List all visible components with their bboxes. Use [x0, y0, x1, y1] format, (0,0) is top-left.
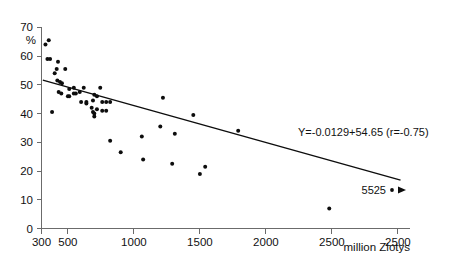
data-point: [59, 91, 63, 95]
data-point: [158, 124, 162, 128]
data-point: [53, 71, 57, 75]
data-point: [141, 158, 145, 162]
data-point: [74, 91, 78, 95]
data-point: [91, 110, 95, 114]
data-point: [78, 90, 82, 94]
x-tick-label: 2000: [253, 236, 279, 248]
data-point: [50, 110, 54, 114]
data-point: [119, 150, 123, 154]
y-tick-label: 60: [20, 50, 33, 62]
y-tick-label: 30: [20, 136, 33, 148]
x-axis-ticks: [42, 229, 398, 234]
y-tick-label: 10: [20, 194, 33, 206]
data-point: [95, 107, 99, 111]
data-point: [198, 172, 202, 176]
x-tick-label: 300: [32, 236, 51, 248]
data-point: [90, 106, 94, 110]
data-point: [100, 109, 104, 113]
y-tick-label: 0: [27, 223, 33, 235]
data-point: [67, 94, 71, 98]
data-point: [60, 81, 64, 85]
y-tick-label: 40: [20, 108, 33, 120]
x-tick-label: 2500: [319, 236, 345, 248]
data-point: [43, 43, 47, 47]
y-axis-unit-label: %: [26, 34, 36, 46]
outlier-annotation: 5525: [362, 184, 406, 196]
data-point: [108, 139, 112, 143]
data-point: [48, 57, 52, 61]
y-tick-label: 70: [20, 21, 33, 33]
y-tick-label: 20: [20, 165, 33, 177]
data-point: [140, 135, 144, 139]
y-axis-tick-labels: 010203040506070: [20, 21, 33, 234]
data-point: [104, 100, 108, 104]
outlier-dot-icon: [390, 188, 394, 192]
data-point: [236, 129, 240, 133]
data-point: [91, 99, 95, 103]
scatter-chart-figure: 010203040506070 300500100015002000250025…: [0, 0, 452, 273]
right-arrow-icon: [398, 187, 406, 194]
x-axis-title: million Zlotys: [344, 241, 411, 253]
regression-equation-label: Y=-0.0129+54.65 (r=-0.75): [298, 126, 429, 138]
data-point: [170, 162, 174, 166]
chart-canvas: 010203040506070 300500100015002000250025…: [0, 0, 452, 273]
data-point: [63, 67, 67, 71]
y-axis-ticks: [37, 27, 42, 228]
data-point: [47, 38, 51, 42]
data-point: [203, 165, 207, 169]
data-point: [92, 114, 96, 118]
data-point: [191, 113, 195, 117]
data-point: [98, 86, 102, 90]
data-point: [108, 100, 112, 104]
data-point: [95, 94, 99, 98]
x-tick-label: 1500: [187, 236, 213, 248]
data-point: [67, 87, 71, 91]
data-point: [327, 206, 331, 210]
data-point: [56, 60, 60, 64]
data-point: [161, 96, 165, 100]
data-point-group: [43, 38, 331, 210]
data-point: [173, 132, 177, 136]
data-point: [82, 86, 86, 90]
y-tick-label: 50: [20, 79, 33, 91]
x-tick-label: 500: [58, 236, 77, 248]
outlier-annotation-label: 5525: [362, 184, 386, 196]
data-point: [100, 100, 104, 104]
data-point: [72, 86, 76, 90]
data-point: [55, 67, 59, 71]
data-point: [104, 109, 108, 113]
data-point: [79, 100, 83, 104]
x-tick-label: 1000: [121, 236, 147, 248]
data-point: [84, 101, 88, 105]
